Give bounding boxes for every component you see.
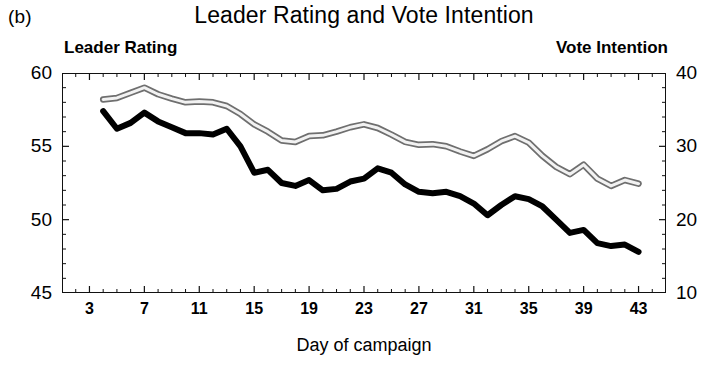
left-axis-tick-45: 45 <box>8 282 52 304</box>
right-axis-tick-40: 40 <box>676 62 720 84</box>
x-axis-tick-43: 43 <box>630 300 648 318</box>
axis-ticks <box>62 73 666 293</box>
right-axis-tick-20: 20 <box>676 209 720 231</box>
x-axis-label: Day of campaign <box>62 335 666 356</box>
right-axis-tick-labels: 10203040 <box>676 0 728 373</box>
x-axis-tick-23: 23 <box>355 300 373 318</box>
right-axis-tick-10: 10 <box>676 282 720 304</box>
series-line-leader-rating <box>103 111 638 252</box>
plot-area <box>62 73 666 293</box>
figure-panel: (b) Leader Rating and Vote Intention Lea… <box>0 0 728 373</box>
x-axis-tick-7: 7 <box>140 300 149 318</box>
left-axis-tick-labels: 45505560 <box>0 0 52 373</box>
left-axis-tick-50: 50 <box>8 209 52 231</box>
x-axis-tick-39: 39 <box>575 300 593 318</box>
x-axis-tick-15: 15 <box>245 300 263 318</box>
chart-title: Leader Rating and Vote Intention <box>62 2 666 29</box>
x-axis-tick-27: 27 <box>410 300 428 318</box>
right-axis-tick-30: 30 <box>676 135 720 157</box>
left-axis-tick-55: 55 <box>8 135 52 157</box>
x-axis-tick-19: 19 <box>300 300 318 318</box>
left-axis-tick-60: 60 <box>8 62 52 84</box>
x-axis-tick-3: 3 <box>85 300 94 318</box>
left-axis-series-label: Leader Rating <box>64 38 177 58</box>
x-axis-tick-35: 35 <box>520 300 538 318</box>
data-series-group <box>103 88 638 252</box>
x-axis-tick-11: 11 <box>191 300 208 318</box>
x-axis-tick-31: 31 <box>465 300 483 318</box>
right-axis-series-label: Vote Intention <box>556 38 668 58</box>
